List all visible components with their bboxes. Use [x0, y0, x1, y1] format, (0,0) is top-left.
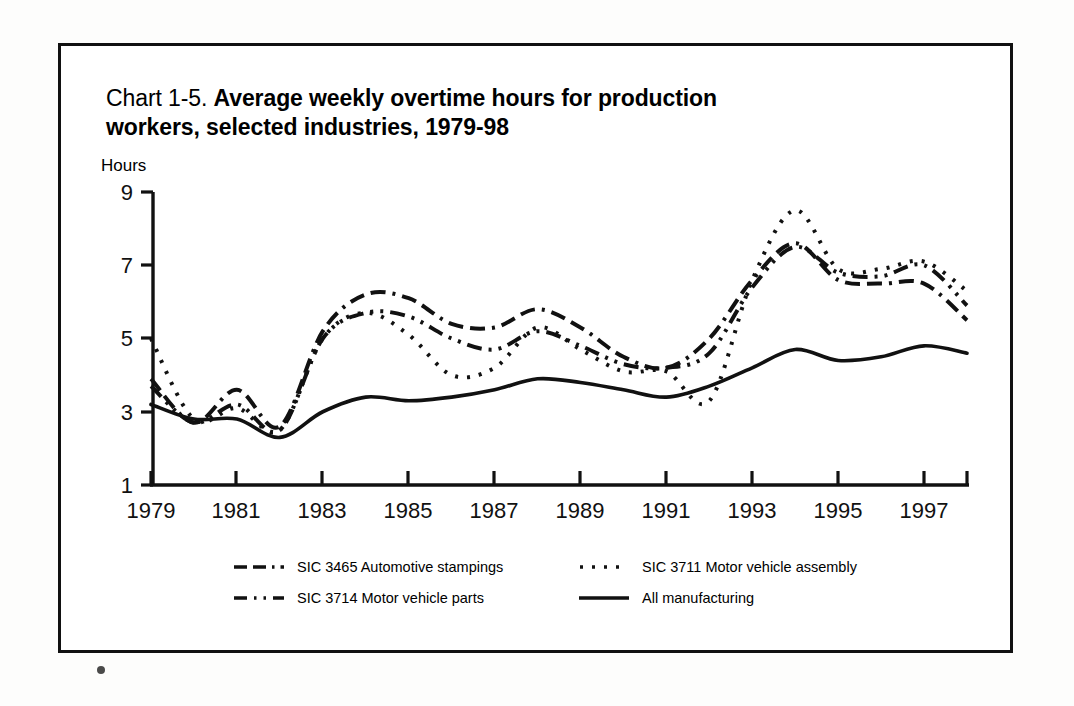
series-line-sic-3714-motor-vehicle-parts	[151, 247, 967, 432]
legend-swatch-dash-dot-dot	[233, 592, 285, 604]
legend-swatch-solid	[578, 592, 630, 604]
page-scan-dot	[97, 666, 105, 674]
x-tick-1983: 1983	[298, 498, 347, 523]
x-tick-1997: 1997	[900, 498, 949, 523]
legend-item-sic-3711: SIC 3711 Motor vehicle assembly	[578, 559, 958, 575]
x-tick-1991: 1991	[642, 498, 691, 523]
chart-frame: Chart 1-5. Average weekly overtime hours…	[58, 43, 1013, 653]
y-tick-3: 3	[121, 400, 133, 425]
x-tick-1993: 1993	[728, 498, 777, 523]
y-axis-tick-labels: 9 7 5 3 1	[121, 180, 133, 498]
page-canvas: Chart 1-5. Average weekly overtime hours…	[0, 0, 1074, 706]
chart-legend: SIC 3465 Automotive stampings SIC 3711 M…	[233, 551, 963, 613]
legend-item-sic-3465: SIC 3465 Automotive stampings	[233, 559, 578, 575]
x-tick-1987: 1987	[470, 498, 519, 523]
legend-row: SIC 3714 Motor vehicle parts All manufac…	[233, 582, 963, 613]
legend-swatch-dotted	[578, 561, 630, 573]
x-tick-1995: 1995	[814, 498, 863, 523]
legend-item-sic-3714: SIC 3714 Motor vehicle parts	[233, 590, 578, 606]
series-line-sic-3711-motor-vehicle-assembly	[151, 210, 967, 432]
series-line-all-manufacturing	[151, 346, 967, 438]
x-tick-1981: 1981	[212, 498, 261, 523]
legend-row: SIC 3465 Automotive stampings SIC 3711 M…	[233, 551, 963, 582]
y-tick-5: 5	[121, 326, 133, 351]
legend-label-sic-3714: SIC 3714 Motor vehicle parts	[297, 590, 484, 606]
legend-label-sic-3465: SIC 3465 Automotive stampings	[297, 559, 503, 575]
x-axis-tick-labels: 1979 1981 1983 1985 1987 1989 1991 1993 …	[127, 498, 949, 523]
x-axis-ticks	[151, 471, 967, 485]
legend-label-sic-3711: SIC 3711 Motor vehicle assembly	[642, 559, 857, 575]
legend-item-all-manufacturing: All manufacturing	[578, 590, 958, 606]
legend-swatch-dash-dash-dot	[233, 561, 285, 573]
y-tick-1: 1	[121, 473, 133, 498]
y-tick-9: 9	[121, 180, 133, 205]
x-tick-1979: 1979	[127, 498, 176, 523]
series-group	[151, 210, 967, 437]
x-tick-1985: 1985	[384, 498, 433, 523]
y-tick-7: 7	[121, 253, 133, 278]
x-tick-1989: 1989	[556, 498, 605, 523]
legend-label-all-manufacturing: All manufacturing	[642, 590, 754, 606]
